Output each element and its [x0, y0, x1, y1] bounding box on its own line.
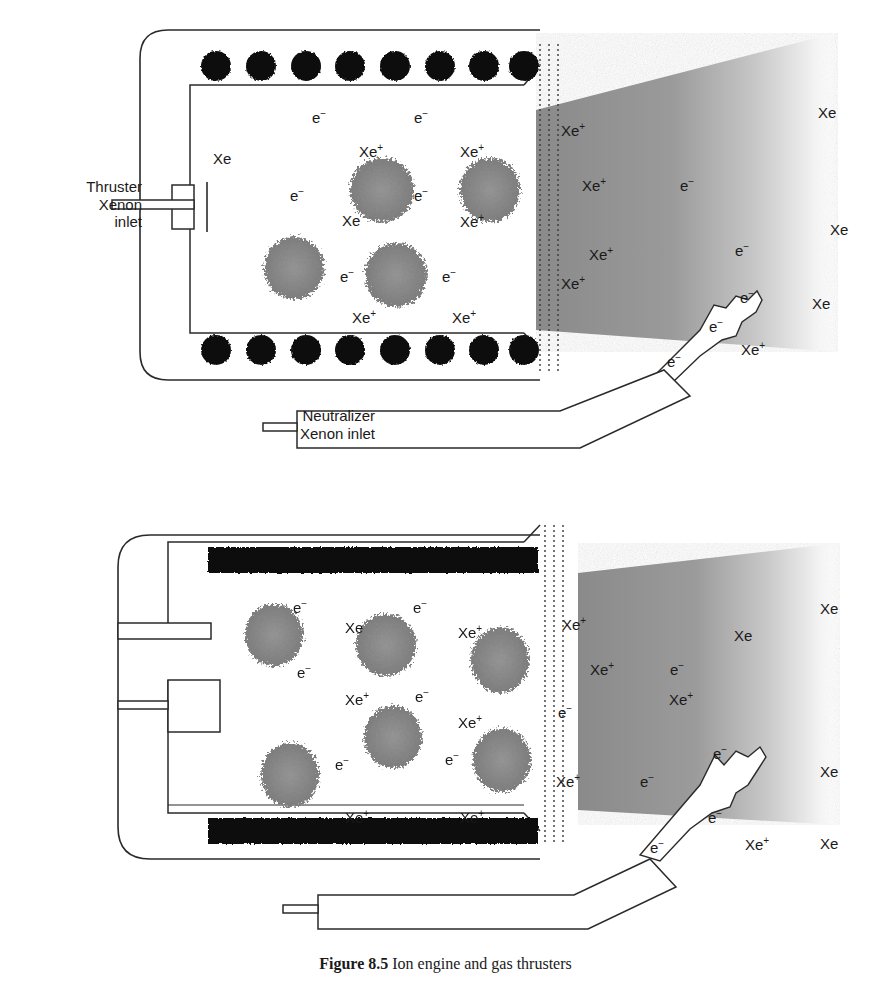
species-label-xe-ion: Xe+ — [345, 690, 369, 709]
species-label-e-electron: e− — [414, 108, 428, 127]
species-label-e-electron: e− — [640, 772, 654, 791]
species-label-xe-ion: Xe+ — [458, 623, 482, 642]
species-label-xe-ion: Xe+ — [359, 142, 383, 161]
species-label-e-electron: e− — [445, 750, 459, 769]
plasma-blob — [261, 743, 319, 807]
species-label-xe-neutral: Xe — [345, 619, 363, 637]
species-label-xe-ion: Xe+ — [345, 808, 369, 827]
species-label-xe-ion: Xe+ — [589, 245, 613, 264]
species-label-e-electron: e− — [713, 744, 727, 763]
species-label-e-electron: e− — [297, 663, 311, 682]
bottom-diagram-svg — [0, 495, 891, 982]
bottom-ion-engine-diagram: Thruster Xenon mainflow inlet Thruster X… — [0, 495, 891, 935]
species-label-e-electron: e− — [290, 186, 304, 205]
species-label-e-electron: e− — [740, 288, 754, 307]
plasma-blob — [264, 237, 324, 299]
top-ion-engine-diagram: Thruster Xenon inlet Xe Neutralizer Xeno… — [0, 0, 891, 490]
thruster-xenon-mainflow-inlet — [118, 623, 211, 639]
plasma-blob — [365, 243, 427, 307]
magnet-bar-bottom — [208, 818, 538, 844]
cathode-inlet-tube — [118, 701, 168, 709]
species-label-xe-ion: Xe+ — [561, 274, 585, 293]
species-label-xe-neutral: Xe — [812, 295, 830, 313]
species-label-xe-ion: Xe+ — [590, 660, 614, 679]
species-label-e-electron: e− — [335, 755, 349, 774]
species-label-e-electron: e− — [442, 267, 456, 286]
plasma-blob — [473, 728, 531, 792]
species-label-xe-ion: Xe+ — [452, 308, 476, 327]
species-label-xe-neutral: Xe — [734, 627, 752, 645]
species-label-e-electron: e− — [708, 808, 722, 827]
plasma-blob — [364, 706, 422, 768]
magnet-ring-bottom — [201, 335, 539, 365]
species-label-xe-ion: Xe+ — [741, 340, 765, 359]
species-label-xe-neutral: Xe — [820, 763, 838, 781]
neutralizer-xenon-inlet-label: Neutralizer Xenon inlet — [200, 407, 375, 442]
species-label-e-electron: e− — [650, 838, 664, 857]
species-label-xe-ion: Xe+ — [669, 690, 693, 709]
species-label-xe-ion: Xe+ — [460, 212, 484, 231]
species-label-e-electron: e− — [293, 598, 307, 617]
species-label-xe-ion: Xe+ — [460, 808, 484, 827]
plasma-blob-group — [264, 158, 520, 307]
caption-text: Ion engine and gas thrusters — [392, 955, 572, 972]
species-label-e-electron: e− — [670, 660, 684, 679]
magnet-ring-top — [201, 51, 539, 81]
plasma-blob — [356, 614, 416, 676]
species-label-e-electron: e− — [709, 317, 723, 336]
species-label-xe-ion: Xe+ — [562, 615, 586, 634]
species-label-xe-ion: Xe+ — [561, 121, 585, 140]
species-label-xe-neutral: Xe — [820, 835, 838, 853]
species-label-xe-ion: Xe+ — [745, 835, 769, 854]
species-label-e-electron: e− — [414, 186, 428, 205]
thruster-xenon-inlet-label: Thruster Xenon inlet — [22, 178, 142, 231]
species-label-xe-ion: Xe+ — [458, 713, 482, 732]
species-label-xe-neutral: Xe — [342, 212, 360, 230]
species-label-e-electron: e− — [735, 241, 749, 260]
species-label-xe-ion: Xe+ — [460, 142, 484, 161]
species-label-e-electron: e− — [340, 267, 354, 286]
species-label-xe-ion: Xe+ — [582, 176, 606, 195]
species-label-xe-ion: Xe+ — [352, 308, 376, 327]
cathode-assembly — [118, 680, 220, 732]
magnet-bar-group — [208, 547, 538, 844]
accelerator-grid-lines — [545, 525, 563, 845]
species-label-xe-neutral: Xe — [818, 104, 836, 122]
inlet-gas-label: Xe — [213, 150, 231, 168]
species-label-e-electron: e− — [667, 352, 681, 371]
cathode-box — [168, 680, 220, 732]
species-label-e-electron: e− — [312, 108, 326, 127]
species-label-xe-ion: Xe+ — [556, 772, 580, 791]
species-label-e-electron: e− — [558, 703, 572, 722]
species-label-e-electron: e− — [680, 176, 694, 195]
species-label-xe-neutral: Xe — [830, 221, 848, 239]
plasma-blob-group — [245, 604, 531, 807]
top-diagram-svg — [0, 0, 891, 490]
neutralizer-body — [283, 859, 676, 929]
species-label-e-electron: e− — [415, 687, 429, 706]
figure-caption: Figure 8.5 Ion engine and gas thrusters — [0, 955, 891, 982]
magnet-bar-top — [208, 547, 538, 573]
caption-label: Figure 8.5 — [319, 955, 388, 972]
species-label-e-electron: e− — [413, 598, 427, 617]
species-label-xe-neutral: Xe — [820, 600, 838, 618]
